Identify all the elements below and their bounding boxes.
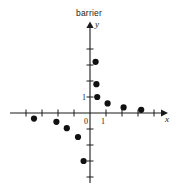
y-tick-label-one: 1 <box>82 93 86 102</box>
axis-labels-group: x y 0 1 1 <box>82 19 169 126</box>
data-point <box>75 134 81 140</box>
x-tick-label-one: 1 <box>101 117 105 126</box>
axes-group <box>10 22 168 184</box>
y-axis-label: y <box>94 19 99 29</box>
data-point <box>81 158 87 164</box>
data-point <box>138 107 144 113</box>
data-point <box>64 125 70 131</box>
origin-tick-label: 0 <box>84 117 88 126</box>
scatter-plot-canvas: x y 0 1 1 <box>0 0 178 196</box>
data-point <box>105 100 111 106</box>
data-point <box>121 104 127 110</box>
data-points-group <box>31 59 144 164</box>
data-point <box>31 116 37 122</box>
y-axis-arrowhead <box>86 22 93 29</box>
data-point <box>53 119 59 125</box>
x-axis-label: x <box>164 114 169 124</box>
data-point <box>93 59 99 65</box>
data-point <box>93 81 99 87</box>
data-point <box>94 94 100 100</box>
chart-figure: barrier x <box>0 0 178 196</box>
